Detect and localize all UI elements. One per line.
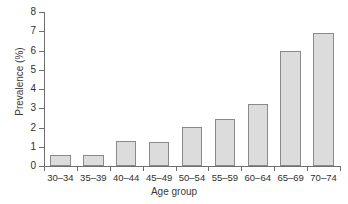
x-axis-tick-label: 70–74 xyxy=(307,172,340,183)
bar xyxy=(50,155,70,166)
bar xyxy=(149,142,169,166)
x-axis-title: Age group xyxy=(0,186,348,197)
bar xyxy=(215,119,235,166)
x-axis-tick-label: 35–39 xyxy=(77,172,110,183)
y-axis-tick xyxy=(39,108,44,109)
y-axis-tick xyxy=(39,12,44,13)
x-axis-tick-label: 45–49 xyxy=(143,172,176,183)
y-axis-tick-label: 2 xyxy=(14,123,36,133)
x-axis-tick xyxy=(274,166,275,171)
x-axis-tick xyxy=(241,166,242,171)
y-axis-tick-label: 4 xyxy=(14,84,36,94)
x-axis-tick-label: 50–54 xyxy=(176,172,209,183)
y-axis-tick-label: 0 xyxy=(14,161,36,171)
x-axis-tick xyxy=(143,166,144,171)
y-axis-tick-label: 5 xyxy=(14,65,36,75)
x-axis-tick xyxy=(44,166,45,171)
y-axis-tick xyxy=(39,128,44,129)
x-axis-spine xyxy=(44,166,341,167)
x-axis-tick-label: 55–59 xyxy=(208,172,241,183)
x-axis-tick xyxy=(307,166,308,171)
y-axis-tick xyxy=(39,31,44,32)
x-axis-tick xyxy=(110,166,111,171)
bar xyxy=(313,33,333,166)
x-axis-tick-label: 65–69 xyxy=(274,172,307,183)
x-axis-tick-label: 60–64 xyxy=(241,172,274,183)
x-axis-tick-label: 40–44 xyxy=(110,172,143,183)
prevalence-by-age-group-bar-chart: Prevalence (%) 012345678 30–3435–3940–44… xyxy=(0,0,348,204)
y-axis-tick-label: 7 xyxy=(14,26,36,36)
x-axis-tick xyxy=(77,166,78,171)
y-axis-tick-label: 6 xyxy=(14,46,36,56)
bar xyxy=(248,104,268,166)
y-axis-tick xyxy=(39,147,44,148)
y-axis-tick xyxy=(39,70,44,71)
x-axis-tick xyxy=(208,166,209,171)
bar xyxy=(280,51,300,166)
x-axis-tick-label: 30–34 xyxy=(44,172,77,183)
y-axis-tick xyxy=(39,89,44,90)
plot-area xyxy=(44,12,340,166)
y-axis-tick xyxy=(39,51,44,52)
x-axis-tick xyxy=(340,166,341,171)
bar xyxy=(83,155,103,166)
bar xyxy=(182,127,202,166)
bar xyxy=(116,141,136,166)
y-axis-tick-label: 8 xyxy=(14,7,36,17)
y-axis-tick-label: 1 xyxy=(14,142,36,152)
y-axis-tick-label: 3 xyxy=(14,103,36,113)
x-axis-tick xyxy=(176,166,177,171)
